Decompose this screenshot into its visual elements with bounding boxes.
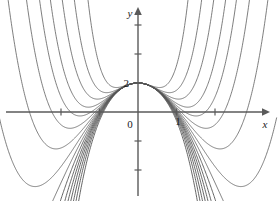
math-figure: x y 0 1 2 xyxy=(0,0,278,201)
x-axis-label: x xyxy=(262,118,268,130)
x-tick-label-1: 1 xyxy=(175,115,181,127)
y-tick-label-2: 2 xyxy=(124,77,130,89)
y-axis-arrow-icon xyxy=(134,7,142,15)
plot-canvas: x y 0 1 2 xyxy=(0,0,278,201)
axes-group xyxy=(6,7,270,196)
y-axis-label: y xyxy=(127,7,133,19)
x-axis-arrow-icon xyxy=(262,108,270,116)
origin-tick-label: 0 xyxy=(127,118,133,130)
